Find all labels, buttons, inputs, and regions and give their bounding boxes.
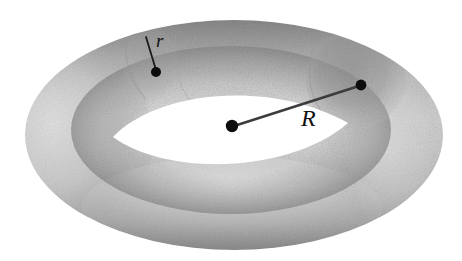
major-radius-label: R (301, 106, 316, 130)
minor-radius-label: r (156, 31, 163, 50)
torus-body (0, 18, 462, 260)
major-radius-center-dot (226, 120, 238, 132)
minor-radius-endpoint-dot (151, 67, 161, 77)
major-radius-endpoint-dot (356, 80, 367, 91)
torus-grain-overlay (25, 20, 443, 250)
torus-figure: r R (0, 0, 462, 261)
torus-illustration (0, 0, 462, 261)
